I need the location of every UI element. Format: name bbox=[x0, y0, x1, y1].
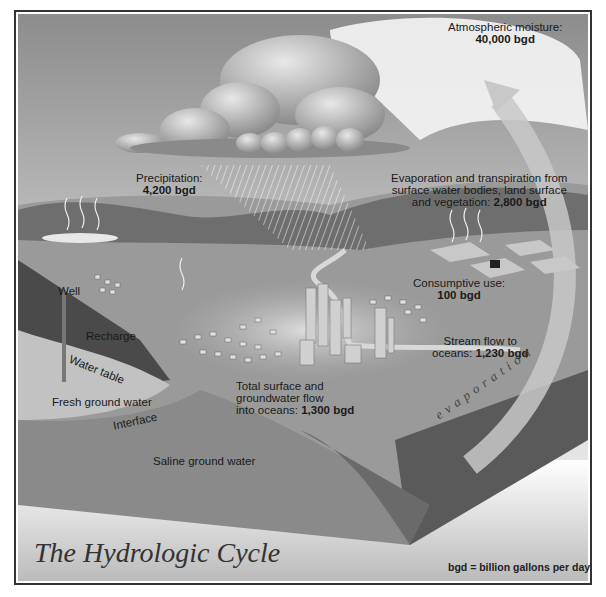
total-flow-text-3: into oceans: bbox=[236, 404, 298, 416]
atmospheric-moisture-text: Atmospheric moisture: bbox=[448, 21, 562, 33]
lake bbox=[42, 233, 118, 243]
total-flow-text-2: groundwater flow bbox=[236, 392, 324, 404]
evapotranspiration-value: 2,800 bgd bbox=[494, 196, 547, 208]
well-label: Well bbox=[58, 285, 80, 297]
atmospheric-moisture-value: 40,000 bgd bbox=[475, 33, 534, 45]
atmospheric-moisture-label: Atmospheric moisture: 40,000 bgd bbox=[448, 21, 562, 45]
saline-ground-water-label: Saline ground water bbox=[153, 455, 255, 467]
fresh-ground-water-label: Fresh ground water bbox=[52, 396, 152, 408]
well bbox=[62, 290, 66, 382]
total-flow-text-1: Total surface and bbox=[236, 380, 324, 392]
precipitation-label: Precipitation: 4,200 bgd bbox=[136, 172, 202, 196]
total-flow-value: 1,300 bgd bbox=[301, 404, 354, 416]
evapotranspiration-text-1: Evaporation and transpiration from bbox=[391, 172, 567, 184]
hydrologic-scene bbox=[0, 0, 606, 597]
consumptive-use-label: Consumptive use: 100 bgd bbox=[413, 277, 505, 301]
recharge-label: Recharge bbox=[86, 330, 136, 342]
factory bbox=[490, 260, 500, 268]
precipitation-value: 4,200 bgd bbox=[143, 184, 196, 196]
consumptive-use-value: 100 bgd bbox=[437, 289, 480, 301]
diagram-title: The Hydrologic Cycle bbox=[34, 537, 280, 569]
consumptive-use-text: Consumptive use: bbox=[413, 277, 505, 289]
evapotranspiration-label: Evaporation and transpiration from surfa… bbox=[391, 172, 567, 208]
precipitation-text: Precipitation: bbox=[136, 172, 202, 184]
evapotranspiration-text-2: surface water bodies, land surface bbox=[392, 184, 567, 196]
units-legend: bgd = billion gallons per day bbox=[448, 561, 590, 573]
total-flow-label: Total surface and groundwater flow into … bbox=[236, 380, 354, 416]
stream-flow-text-2: oceans: bbox=[432, 347, 472, 359]
evapotranspiration-text-3: and vegetation: bbox=[412, 196, 491, 208]
stream-flow-text-1: Stream flow to bbox=[444, 335, 518, 347]
